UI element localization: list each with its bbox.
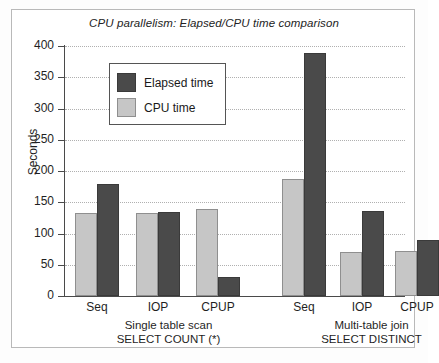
bar-cpu-time [75,213,97,296]
y-axis-tick [58,77,65,78]
y-axis-tick-label: 200 [12,163,54,177]
bar-cpu-time [282,179,304,297]
chart-title: CPU parallelism: Elapsed/CPU time compar… [0,17,428,29]
bar-cpu-time [395,251,417,296]
y-axis-tick-label: 100 [12,226,54,240]
y-axis-tick [58,109,65,110]
group-caption-line2: SELECT DISTINCT [321,332,422,346]
y-axis-title: Seconds [26,107,40,197]
x-axis-group-caption: Multi-table joinSELECT DISTINCT [321,318,422,346]
bar-cpu-time [196,209,218,296]
y-axis-tick-label: 250 [12,132,54,146]
bar-elapsed-time [362,211,384,296]
legend-swatch-elapsed-icon [117,73,136,92]
y-axis-tick-label: 150 [12,194,54,208]
x-axis-tick-label: Seq [293,300,314,314]
y-axis-tick-label: 50 [12,257,54,271]
y-axis-tick [58,202,65,203]
group-caption-line2: SELECT COUNT (*) [117,332,221,346]
y-axis-tick [58,171,65,172]
x-axis-tick-label: IOP [148,300,169,314]
y-axis-tick-label: 0 [12,288,54,302]
bar-cpu-time [340,252,362,296]
y-axis-tick-label: 400 [12,38,54,52]
y-axis-tick-label: 300 [12,101,54,115]
x-axis-tick-label: CPUP [201,300,234,314]
bar-elapsed-time [417,240,439,296]
x-axis-line [64,296,405,297]
bar-cpu-time [136,213,158,296]
y-axis-tick [58,265,65,266]
legend-item-elapsed: Elapsed time [117,70,219,95]
y-axis-tick [58,46,65,47]
bar-elapsed-time [218,277,240,296]
x-axis-tick-label: CPUP [400,300,433,314]
legend-label-cpu: CPU time [144,101,195,115]
y-axis-tick [58,140,65,141]
bar-elapsed-time [158,212,180,296]
bar-elapsed-time [97,184,119,297]
x-axis-group-caption: Single table scanSELECT COUNT (*) [117,318,221,346]
y-axis-tick [58,234,65,235]
legend-label-elapsed: Elapsed time [144,76,213,90]
x-axis-tick-label: Seq [86,300,107,314]
group-caption-line1: Single table scan [117,318,221,332]
y-axis-tick-label: 350 [12,69,54,83]
chart-legend: Elapsed time CPU time [109,63,226,125]
y-axis-tick [58,296,65,297]
bar-elapsed-time [304,53,326,296]
legend-swatch-cpu-icon [117,98,136,117]
group-caption-line1: Multi-table join [321,318,422,332]
x-axis-tick-label: IOP [352,300,373,314]
legend-item-cpu: CPU time [117,95,219,120]
